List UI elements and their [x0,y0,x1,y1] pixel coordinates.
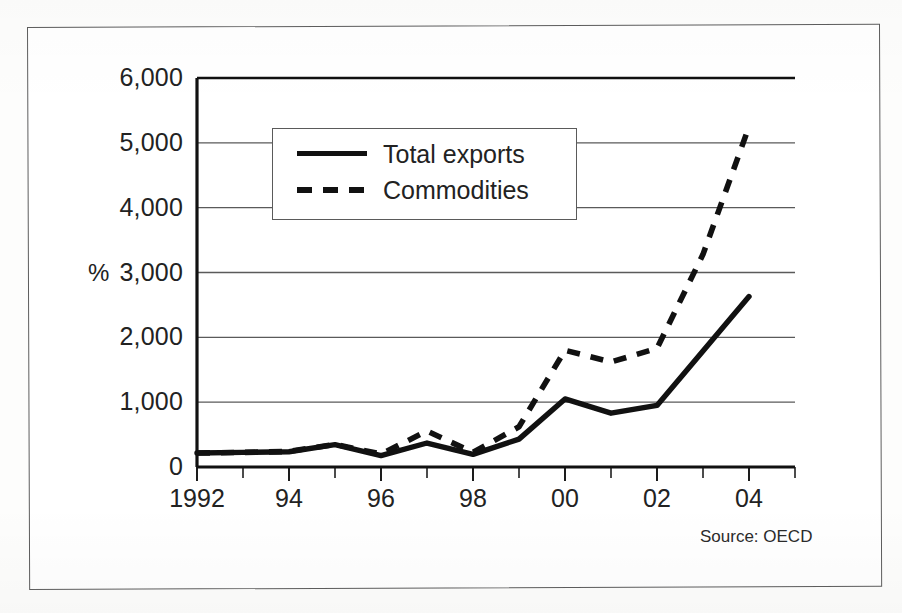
y-axis-tick-label: 0 [169,454,183,479]
x-axis-tick-label: 04 [689,486,809,511]
source-note: Source: OECD [700,528,812,545]
y-axis-tick-label: 3,000 [119,260,183,285]
y-axis-tick-label: 6,000 [119,65,183,90]
gridlines-group [197,78,795,402]
y-axis-tick-label: 2,000 [119,324,183,349]
solid-line-swatch [293,139,369,169]
x-axis-tick-marks [197,467,795,481]
y-axis-tick-label: 5,000 [119,130,183,155]
scanned-page-background: 01,0002,0003,0004,0005,0006,000 19929496… [0,0,902,613]
y-axis-tick-label: 1,000 [119,389,183,414]
y-axis-unit-label: % [88,261,109,285]
y-axis-tick-label: 4,000 [119,195,183,220]
dashed-line-swatch [293,175,369,205]
series-line-total-exports [197,296,749,455]
legend-label-total-exports: Total exports [383,142,525,167]
chart-legend: Total exports Commodities [272,128,577,220]
chart-plot-area: 01,0002,0003,0004,0005,0006,000 19929496… [0,0,902,613]
chart-canvas [0,0,902,613]
legend-label-commodities: Commodities [383,178,529,203]
legend-item-total-exports: Total exports [293,139,525,169]
legend-item-commodities: Commodities [293,175,529,205]
